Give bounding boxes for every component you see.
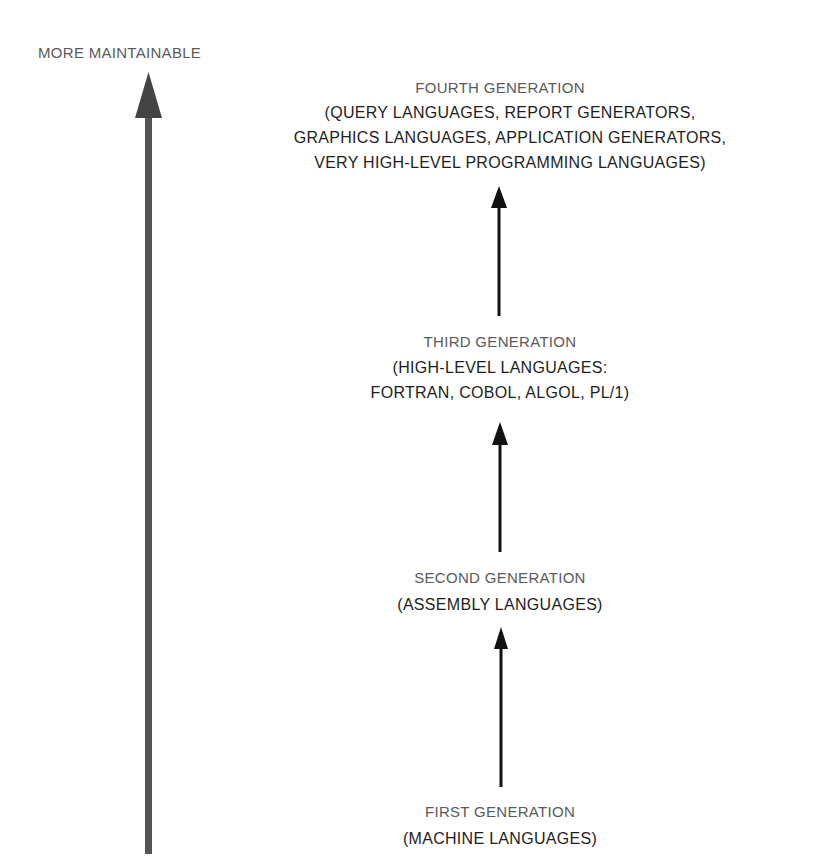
generation-title: THIRD GENERATION xyxy=(300,333,700,350)
generation-title: FOURTH GENERATION xyxy=(300,79,700,96)
generation-description-line: (QUERY LANGUAGES, REPORT GENERATORS, xyxy=(220,102,800,124)
generation-description-line: VERY HIGH-LEVEL PROGRAMMING LANGUAGES) xyxy=(220,152,800,174)
generation-description-line: FORTRAN, COBOL, ALGOL, PL/1) xyxy=(300,382,700,404)
generation-description-line: GRAPHICS LANGUAGES, APPLICATION GENERATO… xyxy=(220,127,800,149)
generation-description-line: (ASSEMBLY LANGUAGES) xyxy=(300,594,700,616)
generation-title: SECOND GENERATION xyxy=(300,569,700,586)
arrow-second-to-third xyxy=(492,422,508,552)
generation-title: FIRST GENERATION xyxy=(300,803,700,820)
axis-label: MORE MAINTAINABLE xyxy=(38,44,260,61)
generation-description-line: (MACHINE LANGUAGES) xyxy=(300,828,700,850)
arrow-first-to-second xyxy=(494,627,508,787)
maintainability-axis-arrow xyxy=(135,72,162,854)
arrow-third-to-fourth xyxy=(491,186,507,316)
generation-description-line: (HIGH-LEVEL LANGUAGES: xyxy=(300,357,700,379)
